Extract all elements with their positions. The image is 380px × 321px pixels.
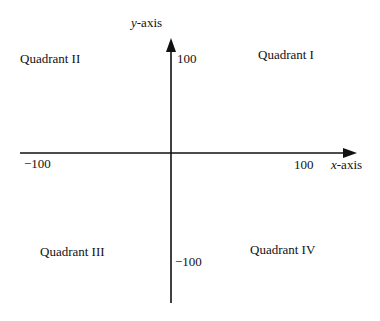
quadrant-4-label: Quadrant IV bbox=[250, 243, 315, 256]
x-max-tick-label: 100 bbox=[294, 158, 314, 171]
x-min-tick-label: −100 bbox=[24, 157, 51, 170]
y-min-tick-label: −100 bbox=[175, 255, 202, 268]
coordinate-plane-diagram: y-axis 100 −100 −100 100 x-axis Quadrant… bbox=[0, 0, 380, 321]
y-max-tick-label: 100 bbox=[177, 52, 197, 65]
x-axis-label: x-axis bbox=[331, 158, 362, 171]
x-axis-label-rest: -axis bbox=[337, 157, 362, 172]
axes-graphic bbox=[0, 0, 380, 321]
quadrant-2-label: Quadrant II bbox=[20, 52, 80, 65]
y-axis-label: y-axis bbox=[131, 16, 162, 29]
quadrant-3-label: Quadrant III bbox=[40, 245, 105, 258]
y-axis-arrowhead-icon bbox=[166, 38, 176, 52]
quadrant-1-label: Quadrant I bbox=[258, 48, 314, 61]
y-axis-label-rest: -axis bbox=[137, 15, 162, 30]
